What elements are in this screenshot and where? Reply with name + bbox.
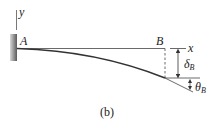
- fixed-wall-support: [10, 34, 17, 61]
- theta-subscript: B: [201, 86, 206, 95]
- y-axis-label: y: [19, 6, 24, 18]
- deflected-beam-curve: [17, 49, 165, 79]
- delta-b-label: δB: [184, 58, 194, 72]
- tangent-line: [165, 78, 193, 92]
- x-axis-label: x: [188, 42, 193, 54]
- figure-caption: (b): [100, 106, 114, 118]
- point-b-label: B: [156, 35, 163, 47]
- delta-subscript: B: [190, 63, 195, 72]
- point-a-label: A: [20, 35, 27, 47]
- theta-b-label: θB: [195, 81, 206, 95]
